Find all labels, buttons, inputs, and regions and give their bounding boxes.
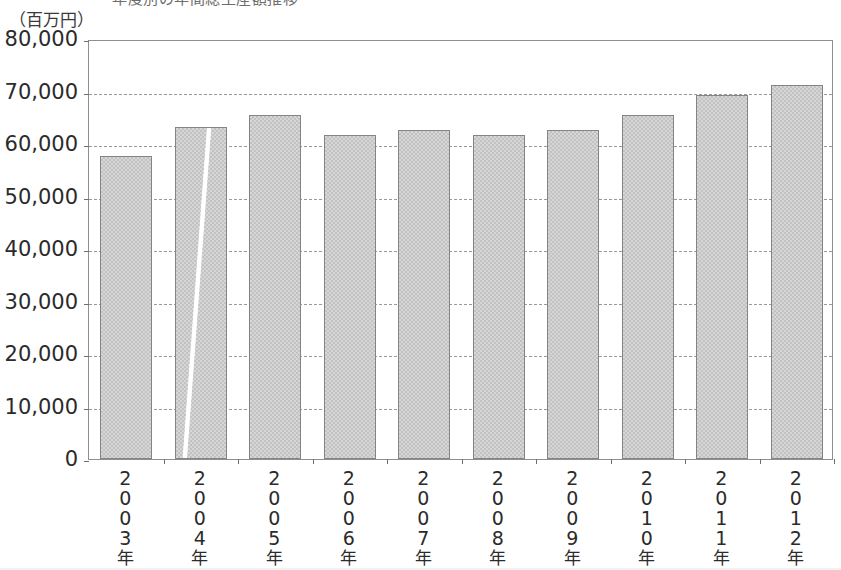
x-axis-label-char: 1 bbox=[695, 528, 747, 548]
x-axis-label-char: 0 bbox=[323, 488, 375, 508]
x-axis-label-char: 1 bbox=[695, 508, 747, 528]
x-axis-label-char: 0 bbox=[397, 508, 449, 528]
x-axis-label-char: 年 bbox=[621, 548, 673, 568]
x-axis-label-char: 2 bbox=[397, 468, 449, 488]
x-axis-label-char: 2 bbox=[546, 468, 598, 488]
x-axis-label-char: 2 bbox=[248, 468, 300, 488]
x-axis-label-char: 7 bbox=[397, 528, 449, 548]
x-axis-label-char: 2 bbox=[99, 468, 151, 488]
x-axis-tick bbox=[313, 459, 314, 464]
x-axis-label-char: 0 bbox=[546, 508, 598, 528]
x-axis-label-char: 0 bbox=[472, 508, 524, 528]
x-axis-label-char: 0 bbox=[621, 488, 673, 508]
x-axis-label-char: 0 bbox=[695, 488, 747, 508]
x-axis-tick bbox=[536, 459, 537, 464]
x-axis-label: 2006年 bbox=[323, 468, 375, 568]
y-axis-tick bbox=[84, 461, 89, 462]
x-axis-label-char: 2 bbox=[323, 468, 375, 488]
x-axis-label-char: 1 bbox=[770, 508, 822, 528]
x-axis-label-char: 5 bbox=[248, 528, 300, 548]
x-axis-label-char: 0 bbox=[397, 488, 449, 508]
bar-2006[interactable] bbox=[324, 135, 376, 459]
x-axis-label-char: 年 bbox=[397, 548, 449, 568]
x-axis-label-char: 9 bbox=[546, 528, 598, 548]
x-axis-label-char: 0 bbox=[472, 488, 524, 508]
x-axis-label-char: 2 bbox=[770, 468, 822, 488]
x-axis-label-char: 年 bbox=[546, 548, 598, 568]
x-axis-tick bbox=[238, 459, 239, 464]
x-axis-label-char: 2 bbox=[621, 468, 673, 488]
y-axis-label: 0 bbox=[0, 449, 78, 470]
bar-2003[interactable] bbox=[100, 156, 152, 459]
x-axis-label-char: 年 bbox=[695, 548, 747, 568]
x-axis-label-char: 0 bbox=[621, 528, 673, 548]
y-axis-label: 80,000 bbox=[0, 29, 78, 50]
x-axis-tick bbox=[834, 459, 835, 464]
x-axis-label: 2009年 bbox=[546, 468, 598, 568]
x-axis-labels: 2003年2004年2005年2006年2007年2008年2009年2010年… bbox=[88, 468, 833, 568]
bar-2008[interactable] bbox=[473, 135, 525, 459]
x-axis-tick bbox=[611, 459, 612, 464]
x-axis-label-char: 6 bbox=[323, 528, 375, 548]
x-axis-tick bbox=[760, 459, 761, 464]
bar-2011[interactable] bbox=[696, 95, 748, 459]
chart-title-strip: 年度別の年間総生産額推移 bbox=[0, 0, 841, 12]
x-axis-label-char: 1 bbox=[621, 508, 673, 528]
y-axis-label: 20,000 bbox=[0, 344, 78, 365]
x-axis-label: 2008年 bbox=[472, 468, 524, 568]
x-axis-label-char: 2 bbox=[174, 468, 226, 488]
bar-2010[interactable] bbox=[622, 115, 674, 459]
x-axis-label: 2011年 bbox=[695, 468, 747, 568]
bar-2005[interactable] bbox=[249, 115, 301, 459]
x-axis-label: 2004年 bbox=[174, 468, 226, 568]
x-axis-label-char: 年 bbox=[248, 548, 300, 568]
plot-area bbox=[88, 40, 833, 460]
x-axis-label-char: 年 bbox=[323, 548, 375, 568]
y-axis-label: 10,000 bbox=[0, 397, 78, 418]
x-axis-label-char: 0 bbox=[248, 508, 300, 528]
x-axis-label-char: 8 bbox=[472, 528, 524, 548]
bar-2012[interactable] bbox=[771, 85, 823, 459]
x-axis-label-char: 0 bbox=[770, 488, 822, 508]
y-axis-label: 70,000 bbox=[0, 82, 78, 103]
chart-title: 年度別の年間総生産額推移 bbox=[112, 0, 298, 8]
bar-2007[interactable] bbox=[398, 130, 450, 459]
scan-artifact-scratch bbox=[175, 127, 214, 459]
x-axis-tick bbox=[685, 459, 686, 464]
x-axis-label-char: 0 bbox=[174, 488, 226, 508]
x-axis-label-char: 2 bbox=[695, 468, 747, 488]
x-axis-label-char: 2 bbox=[472, 468, 524, 488]
x-axis-label-char: 年 bbox=[99, 548, 151, 568]
x-axis-label: 2012年 bbox=[770, 468, 822, 568]
x-axis-label-char: 年 bbox=[472, 548, 524, 568]
x-axis-label-char: 3 bbox=[99, 528, 151, 548]
x-axis-label-char: 0 bbox=[99, 508, 151, 528]
x-axis-label-char: 0 bbox=[323, 508, 375, 528]
y-axis-label: 30,000 bbox=[0, 292, 78, 313]
x-axis-label-char: 0 bbox=[546, 488, 598, 508]
x-axis-tick bbox=[462, 459, 463, 464]
x-axis-label: 2003年 bbox=[99, 468, 151, 568]
x-axis-tick bbox=[164, 459, 165, 464]
x-axis-label-char: 0 bbox=[174, 508, 226, 528]
x-axis-label-char: 0 bbox=[99, 488, 151, 508]
y-axis-label: 40,000 bbox=[0, 239, 78, 260]
x-axis-label: 2007年 bbox=[397, 468, 449, 568]
bar-2009[interactable] bbox=[547, 130, 599, 459]
x-axis-label: 2005年 bbox=[248, 468, 300, 568]
bar-2004[interactable] bbox=[175, 127, 227, 459]
x-axis-label-char: 年 bbox=[174, 548, 226, 568]
x-axis-label-char: 4 bbox=[174, 528, 226, 548]
x-axis-label-char: 年 bbox=[770, 548, 822, 568]
x-axis-label-char: 0 bbox=[248, 488, 300, 508]
bars-layer bbox=[89, 41, 832, 459]
x-axis-tick bbox=[387, 459, 388, 464]
x-axis-label-char: 2 bbox=[770, 528, 822, 548]
y-axis-label: 60,000 bbox=[0, 134, 78, 155]
y-axis-label: 50,000 bbox=[0, 187, 78, 208]
x-axis-label: 2010年 bbox=[621, 468, 673, 568]
